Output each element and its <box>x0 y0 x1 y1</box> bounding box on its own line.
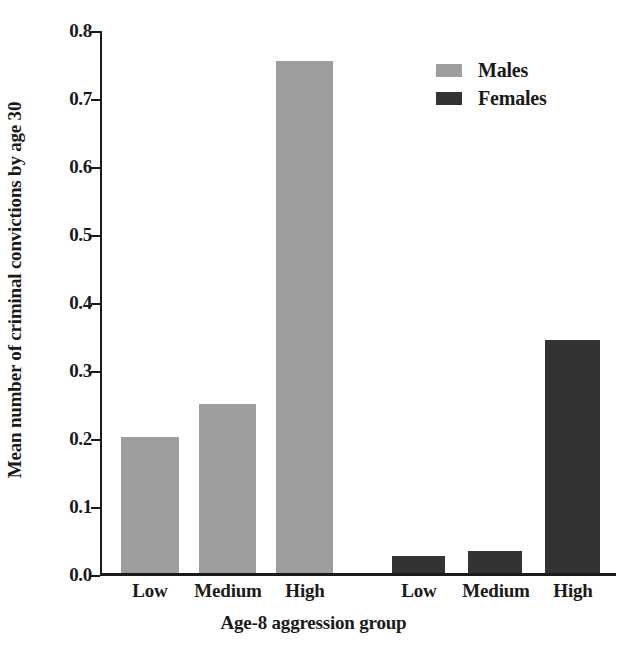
x-tick-label-males-low: Low <box>132 580 167 602</box>
x-tick-label-males-high: High <box>285 580 324 602</box>
legend-swatch-females <box>436 92 462 105</box>
y-axis-title: Mean number of criminal convictions by a… <box>0 0 30 580</box>
legend-item-females: Females <box>436 84 616 112</box>
bar-females-medium <box>468 551 522 573</box>
y-tick-label: 0.7 <box>34 88 92 110</box>
y-axis-tick <box>91 371 100 373</box>
y-tick-label: 0.6 <box>34 156 92 178</box>
y-axis-tick <box>91 575 100 577</box>
bar-females-low <box>392 556 445 573</box>
x-axis-title: Age-8 aggression group <box>0 612 627 634</box>
x-tick-label-females-medium: Medium <box>462 580 529 602</box>
x-tick-label-females-low: Low <box>401 580 436 602</box>
bar-males-high <box>276 61 333 573</box>
y-axis-tick <box>91 235 100 237</box>
plot-area <box>100 31 616 575</box>
legend-label-males: Males <box>478 59 528 82</box>
y-axis-tick <box>91 303 100 305</box>
y-axis-tick <box>91 99 100 101</box>
y-axis-tick <box>91 439 100 441</box>
y-axis-line <box>100 31 102 575</box>
y-tick-label: 0.4 <box>34 292 92 314</box>
y-axis-tick <box>91 507 100 509</box>
bar-males-low <box>121 437 179 573</box>
y-axis-tick-labels: 0.8 0.7 0.6 0.5 0.4 0.3 0.2 0.1 0.0 <box>30 0 92 651</box>
x-tick-label-females-high: High <box>553 580 592 602</box>
legend-label-females: Females <box>478 87 547 110</box>
bar-chart-figure: Mean number of criminal convictions by a… <box>0 0 627 651</box>
x-tick-label-males-medium: Medium <box>194 580 261 602</box>
y-tick-label: 0.3 <box>34 360 92 382</box>
legend-item-males: Males <box>436 56 616 84</box>
y-tick-label: 0.5 <box>34 224 92 246</box>
y-tick-label: 0.2 <box>34 428 92 450</box>
chart-legend: Males Females <box>436 56 616 112</box>
y-axis-tick <box>91 31 100 33</box>
bar-females-high <box>545 340 600 573</box>
y-tick-label: 0.8 <box>34 20 92 42</box>
y-tick-label: 0.0 <box>34 564 92 586</box>
legend-swatch-males <box>436 64 462 77</box>
bar-males-medium <box>199 404 256 573</box>
y-tick-label: 0.1 <box>34 496 92 518</box>
y-axis-tick <box>91 167 100 169</box>
x-axis-line <box>100 573 616 576</box>
